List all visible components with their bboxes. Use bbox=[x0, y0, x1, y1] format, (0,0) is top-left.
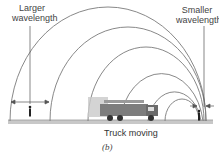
listener-right-icon bbox=[198, 110, 201, 121]
smaller-wavelength-marker bbox=[190, 26, 214, 108]
label-line-1: Smaller bbox=[176, 5, 218, 15]
listener-left-icon bbox=[29, 106, 32, 117]
larger-wavelength-label: Larger wavelength bbox=[12, 3, 52, 23]
label-line-2: wavelength bbox=[176, 15, 218, 25]
smaller-wavelength-label: Smaller wavelength bbox=[176, 5, 218, 25]
caption: Truck moving bbox=[104, 128, 158, 138]
label-line-1: Larger bbox=[12, 3, 52, 13]
panel-label: (b) bbox=[102, 142, 113, 152]
fire-truck-icon bbox=[88, 97, 158, 121]
label-line-2: wavelength bbox=[12, 13, 52, 23]
larger-wavelength-marker bbox=[11, 26, 49, 104]
